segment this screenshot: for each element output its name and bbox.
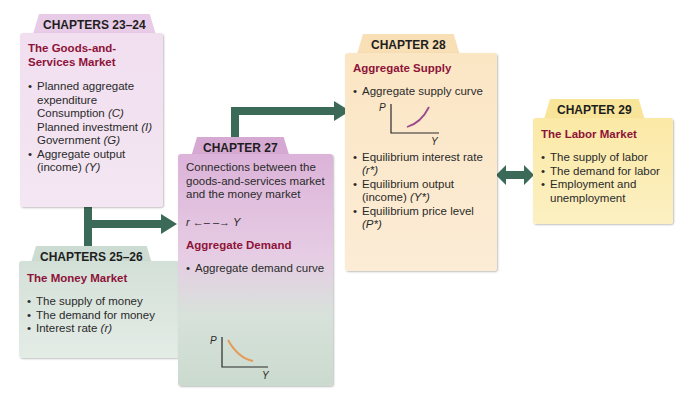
list-item: Government (G) xyxy=(28,134,156,148)
list-item: The supply of money xyxy=(27,295,172,309)
bullet-list: Equilibrium interest rate (r*) Equilibri… xyxy=(353,151,490,232)
aggregate-demand-graph: P Y xyxy=(208,334,278,382)
svg-text:Y: Y xyxy=(262,370,270,381)
box-title: The Money Market xyxy=(27,271,172,285)
list-item: Aggregate supply curve xyxy=(353,85,490,99)
bullet-list: Aggregate supply curve xyxy=(353,85,490,99)
list-item: Planned aggregate expenditure xyxy=(28,80,156,107)
r-y-relation: r ←– –→ Y xyxy=(186,216,326,230)
list-item: The demand for labor xyxy=(541,165,667,179)
list-item: The demand for money xyxy=(27,309,172,323)
bullet-list: Aggregate demand curve xyxy=(186,262,326,276)
list-item: Interest rate (r) xyxy=(27,322,172,336)
list-item: The supply of labor xyxy=(541,151,667,165)
money-market-box: The Money Market The supply of money The… xyxy=(19,261,179,358)
box-title: Aggregate Demand xyxy=(186,238,326,252)
svg-text:Y: Y xyxy=(431,136,439,147)
svg-text:P: P xyxy=(379,102,386,113)
list-item: Equilibrium output (income) (Y*) xyxy=(353,178,490,205)
list-item: Consumption (C) xyxy=(28,107,156,121)
list-item: Equilibrium interest rate (r*) xyxy=(353,151,490,178)
svg-text:P: P xyxy=(210,335,217,346)
list-item: Planned investment (I) xyxy=(28,121,156,135)
list-item: Employment and unemployment xyxy=(541,178,667,205)
bullet-list: The supply of labor The demand for labor… xyxy=(541,151,667,205)
double-arrow-icon xyxy=(496,164,534,186)
aggregate-supply-graph: P Y xyxy=(377,101,447,147)
connector-to-ch28 xyxy=(231,107,336,115)
list-item: Aggregate output (income) (Y) xyxy=(28,148,156,175)
labor-market-box: The Labor Market The supply of labor The… xyxy=(533,118,673,224)
list-item: Equilibrium price level (P*) xyxy=(353,205,490,232)
arrow-head-to-ch27-icon xyxy=(161,214,177,234)
connections-text: Connections between the goods-and-servic… xyxy=(186,161,326,202)
aggregate-supply-box: Aggregate Supply Aggregate supply curve … xyxy=(345,53,497,271)
box-title: Aggregate Supply xyxy=(353,61,490,75)
connector-to-ch27 xyxy=(88,220,163,228)
box-title: The Goods-and-Services Market xyxy=(28,41,156,69)
aggregate-demand-box: Connections between the goods-and-servic… xyxy=(178,154,333,386)
box-title: The Labor Market xyxy=(541,127,667,141)
list-item: Aggregate demand curve xyxy=(186,262,326,276)
bullet-list: The supply of money The demand for money… xyxy=(27,295,172,336)
chapter-tab-28: CHAPTER 28 xyxy=(357,34,460,54)
chapter-tab-23-24: CHAPTERS 23–24 xyxy=(33,14,156,34)
chapter-tab-29: CHAPTER 29 xyxy=(544,99,645,119)
bullet-list: Planned aggregate expenditure Consumptio… xyxy=(28,80,156,175)
goods-services-market-box: The Goods-and-Services Market Planned ag… xyxy=(20,33,163,207)
